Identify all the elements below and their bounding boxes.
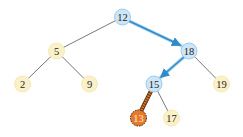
node-13-target: 13 bbox=[131, 110, 147, 126]
path-edge-12-18 bbox=[128, 21, 182, 47]
node-18: 18 bbox=[181, 43, 197, 59]
bst-diagram: 12 5 18 2 9 15 19 13 17 bbox=[0, 0, 243, 137]
node-label: 5 bbox=[54, 46, 59, 57]
node-19: 19 bbox=[214, 76, 230, 92]
node-label: 17 bbox=[166, 113, 177, 124]
node-9: 9 bbox=[82, 76, 98, 92]
node-label: 18 bbox=[184, 46, 195, 57]
node-label: 19 bbox=[216, 79, 227, 90]
target-edge-15-13 bbox=[141, 91, 151, 111]
node-label: 12 bbox=[117, 12, 128, 23]
node-label: 13 bbox=[133, 113, 144, 124]
node-label: 2 bbox=[20, 79, 25, 90]
edge-12-5 bbox=[57, 17, 123, 51]
node-2: 2 bbox=[15, 76, 31, 92]
node-label: 15 bbox=[149, 79, 160, 90]
node-label: 9 bbox=[87, 79, 92, 90]
node-5: 5 bbox=[49, 43, 65, 59]
node-15: 15 bbox=[146, 76, 162, 92]
path-edge-18-15 bbox=[160, 57, 184, 78]
node-17: 17 bbox=[164, 110, 180, 126]
node-12: 12 bbox=[115, 9, 131, 25]
